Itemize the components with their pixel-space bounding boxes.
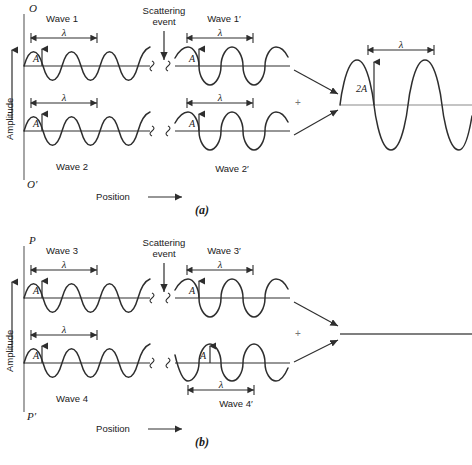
panel-b-position-label: Position — [96, 423, 130, 434]
wave-interference-figure: O O′ Amplitude Wave 1 λ A — [0, 0, 472, 465]
panel-a-axis-bottom-marker: O′ — [27, 178, 38, 190]
panel-b-wave-4-lambda-label: λ — [61, 324, 67, 335]
panel-b-wave-3p-lambda-label: λ — [217, 259, 223, 270]
panel-a-wave-1p-lambda-label: λ — [217, 27, 223, 38]
panel-a-wave-1p-break-icon — [166, 61, 170, 71]
panel-a-resultant-group: λ 2A — [340, 39, 472, 150]
panel-a-input-wave-1-group: Wave 1 λ A — [24, 13, 154, 80]
panel-b-plus-symbol: + — [295, 328, 301, 339]
panel-b-input-wave-3-curve — [24, 279, 150, 312]
panel-a-wave-1-lambda-label: λ — [61, 27, 67, 38]
panel-b-input-wave-3-group: Wave 3 λ A — [24, 245, 154, 312]
panel-b-wave-4-amplitude-label: A — [32, 350, 40, 361]
panel-b-output-wave-4-label: Wave 4′ — [219, 398, 253, 409]
panel-b-input-wave-4-group: λ A Wave 4 — [24, 324, 154, 404]
panel-a-amplitude-label: Amplitude — [4, 98, 15, 140]
panel-a-output-wave-1-label: Wave 1′ — [207, 13, 241, 24]
panel-b-wave-3-amplitude-label: A — [32, 285, 40, 296]
panel-b-input-wave-4-curve — [24, 344, 150, 377]
panel-a-input-wave-1-label: Wave 1 — [46, 13, 78, 24]
panel-b-input-wave-4-label: Wave 4 — [56, 393, 88, 404]
panel-b-wave-3-break-icon — [150, 293, 154, 303]
panel-a-output-wave-2-label: Wave 2′ — [215, 163, 249, 174]
panel-b-axis-bottom-marker: P′ — [26, 410, 37, 422]
panel-a-plus-symbol: + — [295, 97, 301, 108]
panel-a-input-wave-2-group: λ A Wave 2 — [24, 92, 154, 172]
panel-b: P P′ Amplitude Wave 3 λ A λ A — [4, 234, 472, 449]
panel-a-output-wave-1-group: Wave 1′ λ A — [166, 13, 290, 85]
panel-b-input-wave-3-label: Wave 3 — [46, 245, 78, 256]
panel-b-output-wave-3-group: Wave 3′ λ A — [166, 245, 290, 317]
panel-a-wave-1-amplitude-label: A — [32, 53, 40, 64]
panel-b-wave-4p-lambda-label: λ — [218, 379, 224, 390]
panel-a-input-wave-2-label: Wave 2 — [56, 161, 88, 172]
panel-b-wave-3p-amplitude-label: A — [188, 285, 196, 296]
panel-b-wave-3p-break-icon — [166, 293, 170, 303]
panel-a-axis-top-marker: O — [29, 2, 37, 14]
panel-a-wave-1p-amplitude-label: A — [188, 53, 196, 64]
panel-a-output-wave-2-group: λ A Wave 2′ — [166, 92, 290, 174]
panel-b-wave-4-break-icon — [150, 358, 154, 368]
panel-a-scattering-label-line2: event — [152, 16, 176, 27]
panel-a-wave-2p-lambda-label: λ — [217, 92, 223, 103]
panel-a-scattering-label-line1: Scattering — [143, 5, 186, 16]
panel-b-axis-top-marker: P — [28, 234, 36, 246]
panel-b-amplitude-label: Amplitude — [4, 330, 15, 372]
panel-a-wave-2-amplitude-label: A — [32, 118, 40, 129]
panel-a-result-amplitude-label: 2A — [356, 83, 368, 94]
panel-b-sum-arrow-bottom — [294, 340, 338, 362]
panel-b-panel-label: (b) — [195, 435, 209, 449]
panel-a-wave-2p-break-icon — [166, 126, 170, 136]
panel-b-wave-4p-break-icon — [166, 358, 170, 368]
panel-a-position-label: Position — [96, 191, 130, 202]
panel-b-output-wave-4-group: A λ Wave 4′ — [166, 344, 290, 409]
panel-b-output-wave-3-label: Wave 3′ — [207, 245, 241, 256]
panel-b-wave-3-lambda-label: λ — [61, 259, 67, 270]
panel-a-input-wave-1-curve — [24, 47, 150, 80]
panel-a-wave-2-break-icon — [150, 126, 154, 136]
panel-a: O O′ Amplitude Wave 1 λ A — [4, 2, 472, 217]
panel-b-scattering-label-line1: Scattering — [143, 237, 186, 248]
panel-a-sum-arrow-top — [294, 70, 338, 94]
panel-a-sum-arrow-bottom — [294, 110, 338, 135]
panel-b-wave-4p-amplitude-label: A — [199, 350, 207, 361]
panel-a-wave-2-lambda-label: λ — [61, 92, 67, 103]
panel-b-sum-arrow-top — [294, 302, 338, 326]
panel-b-scattering-label-line2: event — [152, 248, 176, 259]
panel-a-input-wave-2-curve — [24, 112, 150, 145]
panel-a-wave-1-break-icon — [150, 61, 154, 71]
panel-a-panel-label: (a) — [195, 203, 209, 217]
panel-a-result-lambda-label: λ — [398, 39, 404, 50]
panel-a-wave-2p-amplitude-label: A — [188, 118, 196, 129]
